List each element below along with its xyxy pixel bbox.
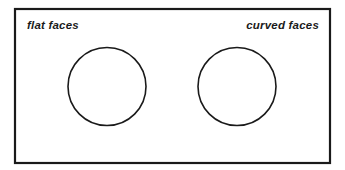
venn-diagram-canvas: flat faces curved faces	[0, 0, 345, 170]
set-label-flat-faces: flat faces	[27, 19, 79, 31]
venn-diagram-figure: flat faces curved faces	[0, 0, 345, 170]
set-label-curved-faces: curved faces	[246, 19, 319, 31]
